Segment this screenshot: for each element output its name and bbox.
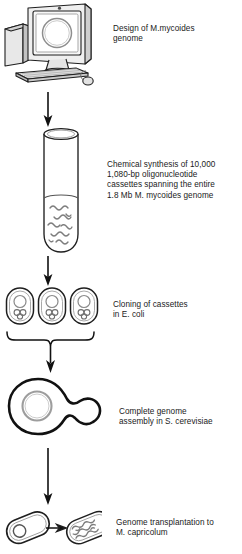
caption-design: Design of M.mycoides genome [113,24,239,44]
caption-assembly: Complete genome assembly in S. cerevisia… [119,407,241,427]
caption-cloning: Cloning of cassettes in E. coli [113,300,239,320]
caption-transplantation: Genome transplantation to M. capricolum [116,518,242,538]
budding-yeast-icon [4,372,108,450]
arrow-design-to-synthesis [36,92,60,128]
arrow-assembly-to-transplantation [36,448,60,506]
desktop-computer-icon [2,2,98,90]
workflow-diagram: Design of M.mycoides genome [0,0,242,554]
genome-transplant-icon [2,504,102,552]
ecoli-cells-icon [4,283,100,329]
arrow-synthesis-to-cloning [36,256,60,286]
caption-synthesis: Chemical synthesis of 10,000 1,080-bp ol… [107,160,241,201]
test-tube-icon [30,126,92,258]
brace-cloning-to-assembly [4,330,100,374]
